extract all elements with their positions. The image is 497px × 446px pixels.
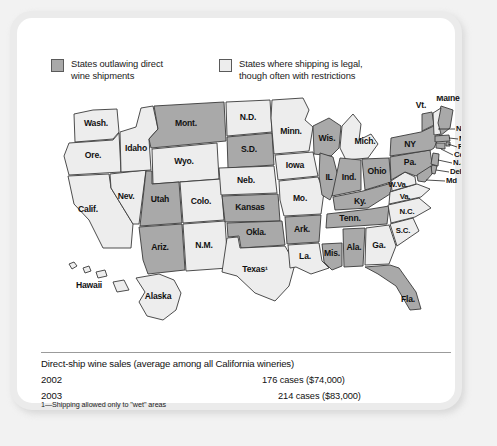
legend-item-outlawing: States outlawing direct wine shipments bbox=[51, 58, 163, 81]
map-legend: States outlawing direct wine shipments S… bbox=[51, 58, 451, 88]
leader-line-NJ bbox=[438, 160, 452, 163]
state-shape-HI[interactable] bbox=[69, 262, 77, 269]
state-label-PA: Pa. bbox=[404, 157, 416, 167]
state-label-NH: N.H. bbox=[456, 124, 461, 133]
state-label-NC: N.C. bbox=[400, 207, 415, 216]
state-label-GA: Ga. bbox=[372, 240, 385, 250]
state-label-MI: Mich. bbox=[355, 136, 376, 146]
state-label-VT: Vt. bbox=[416, 100, 426, 110]
bar-track-2002 bbox=[77, 374, 256, 385]
state-label-AZ: Ariz. bbox=[151, 242, 169, 252]
state-label-ME: Maine bbox=[436, 96, 460, 103]
state-label-OH: Ohio bbox=[368, 166, 387, 176]
legend-item-legal: States where shipping is legal, though o… bbox=[219, 58, 363, 81]
state-label-UT: Utah bbox=[151, 194, 169, 204]
state-label-NV: Nev. bbox=[118, 191, 135, 201]
state-label-MN: Minn. bbox=[280, 126, 301, 136]
state-shape-NJ[interactable] bbox=[431, 153, 439, 166]
state-label-AL: Ala. bbox=[347, 242, 362, 252]
chart-title: Direct-ship wine sales (average among al… bbox=[41, 358, 461, 369]
legend-label-outlawing: States outlawing direct wine shipments bbox=[71, 58, 163, 81]
state-label-SD: S.D. bbox=[241, 144, 257, 154]
state-label-MS: Mis. bbox=[324, 248, 340, 258]
state-label-OK: Okla. bbox=[246, 227, 266, 237]
legend-swatch-outlawing-icon bbox=[51, 59, 64, 72]
state-label-OR: Ore. bbox=[85, 150, 101, 160]
state-label-IL: IL bbox=[325, 172, 332, 182]
state-label-CA: Calif. bbox=[78, 204, 98, 214]
us-map: Wash. Ore. Calif. Nev. Idaho Mont. Wyo. … bbox=[41, 96, 461, 346]
state-label-NJ: N.J. bbox=[453, 158, 461, 167]
legend-swatch-legal-icon bbox=[219, 59, 232, 72]
state-shape-HI-c[interactable] bbox=[96, 270, 107, 278]
bar-year-label-2002: 2002 bbox=[41, 374, 77, 385]
state-label-CO: Colo. bbox=[191, 196, 211, 206]
state-label-TX: Texas¹ bbox=[242, 264, 268, 274]
state-label-AK: Alaska bbox=[145, 291, 172, 301]
leader-line-DE bbox=[436, 170, 449, 172]
state-label-IA: Iowa bbox=[286, 160, 305, 170]
bar-value-label-2002: 176 cases ($74,000) bbox=[262, 375, 345, 385]
state-label-MT: Mont. bbox=[175, 118, 197, 128]
state-shape-MA[interactable] bbox=[435, 135, 450, 142]
state-label-WY: Wyo. bbox=[174, 156, 194, 166]
state-label-MO: Mo. bbox=[293, 193, 307, 203]
state-label-HI: Hawaii bbox=[76, 280, 102, 290]
legend-label-legal: States where shipping is legal, though o… bbox=[239, 58, 363, 81]
bar-value-label-2003: 214 cases ($83,000) bbox=[278, 391, 361, 401]
leader-line-MA bbox=[449, 138, 458, 139]
state-label-LA: La. bbox=[299, 251, 311, 261]
state-shape-HI-d[interactable] bbox=[113, 280, 129, 292]
state-label-WV: W.Va. bbox=[388, 180, 407, 189]
state-label-IN: Ind. bbox=[342, 172, 356, 182]
state-label-KY: Ky. bbox=[354, 196, 366, 206]
state-label-NM: N.M. bbox=[195, 240, 212, 250]
bar-row-2002: 2002 176 cases ($74,000) bbox=[41, 373, 461, 386]
state-label-ND: N.D. bbox=[240, 112, 256, 122]
state-label-WA: Wash. bbox=[84, 118, 108, 128]
state-label-AR: Ark. bbox=[294, 224, 310, 234]
state-shape-CT[interactable] bbox=[436, 143, 445, 149]
state-label-WI: Wis. bbox=[319, 133, 336, 143]
state-label-TN: Tenn. bbox=[339, 213, 360, 223]
state-label-FL: Fla. bbox=[401, 294, 415, 304]
state-label-NE: Neb. bbox=[237, 175, 255, 185]
leader-line-CT bbox=[441, 149, 453, 155]
state-label-ID: Idaho bbox=[125, 143, 147, 153]
state-shape-HI-b[interactable] bbox=[83, 266, 91, 273]
sales-bar-chart: Direct-ship wine sales (average among al… bbox=[41, 358, 461, 405]
footnote-text: 1—Shipping allowed only to "wet" areas bbox=[41, 400, 166, 409]
state-label-VA: Va. bbox=[400, 192, 411, 201]
state-label-NY: NY bbox=[404, 139, 416, 149]
section-divider bbox=[41, 352, 451, 353]
state-label-DE: Del. bbox=[450, 167, 461, 176]
screenshot-root: States outlawing direct wine shipments S… bbox=[0, 0, 497, 446]
infographic-card: States outlawing direct wine shipments S… bbox=[10, 11, 462, 410]
state-label-MD: Md bbox=[446, 176, 457, 185]
state-label-SC: S.C. bbox=[396, 226, 410, 235]
leader-line-MD bbox=[426, 180, 445, 181]
state-label-KS: Kansas bbox=[235, 202, 265, 212]
